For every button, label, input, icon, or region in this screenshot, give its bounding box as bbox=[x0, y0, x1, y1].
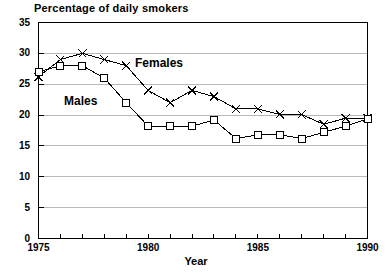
x-tick-label-1990: 1990 bbox=[346, 242, 390, 253]
series-females bbox=[35, 49, 372, 128]
y-tick-label-35: 35 bbox=[6, 17, 30, 28]
y-tick-label-15: 15 bbox=[6, 140, 30, 151]
x-axis-title: Year bbox=[0, 255, 392, 267]
y-tick-marks bbox=[39, 23, 44, 239]
x-tick-marks bbox=[39, 234, 368, 239]
smokers-line-chart: Percentage of daily smokers 051015202530… bbox=[0, 0, 392, 277]
y-tick-label-5: 5 bbox=[6, 202, 30, 213]
y-tick-label-30: 30 bbox=[6, 47, 30, 58]
y-tick-label-10: 10 bbox=[6, 171, 30, 182]
y-tick-label-20: 20 bbox=[6, 109, 30, 120]
x-tick-label-1980: 1980 bbox=[126, 242, 170, 253]
x-tick-label-1985: 1985 bbox=[236, 242, 280, 253]
x-tick-label-1975: 1975 bbox=[17, 242, 61, 253]
y-tick-label-25: 25 bbox=[6, 78, 30, 89]
plot-canvas bbox=[0, 0, 392, 277]
series-label-females: Females bbox=[133, 56, 185, 70]
series-label-males: Males bbox=[62, 94, 99, 108]
gridlines bbox=[39, 23, 368, 208]
